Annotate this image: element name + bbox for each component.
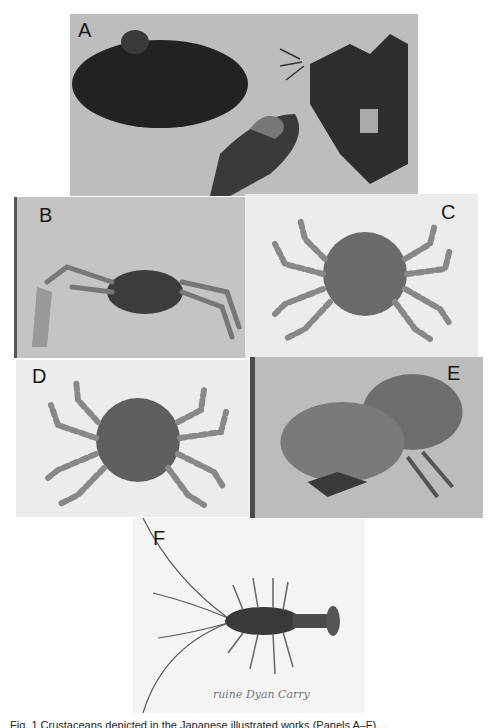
panel-c: C <box>245 194 478 358</box>
panel-d: D <box>16 360 250 517</box>
panel-label-e: E <box>447 363 460 383</box>
handwritten-annotation: ruine Dyan Carry <box>213 688 310 701</box>
panel-label-a: A <box>78 20 91 40</box>
figure-caption: Fig. 1 Crustaceans depicted in the Japan… <box>10 716 490 728</box>
panel-label-b: B <box>39 205 52 225</box>
crab-illustration-d <box>16 360 250 517</box>
panel-e: E <box>250 357 483 518</box>
lobster-illustration <box>133 518 365 713</box>
specimens-photo <box>70 14 418 196</box>
panel-label-d: D <box>32 366 46 386</box>
panel-a: A <box>70 14 418 196</box>
panel-f: F ruine Dyan Carry <box>133 518 365 713</box>
panel-label-c: C <box>441 202 455 222</box>
panel-label-f: F <box>153 528 165 548</box>
panel-b: B <box>14 197 248 358</box>
